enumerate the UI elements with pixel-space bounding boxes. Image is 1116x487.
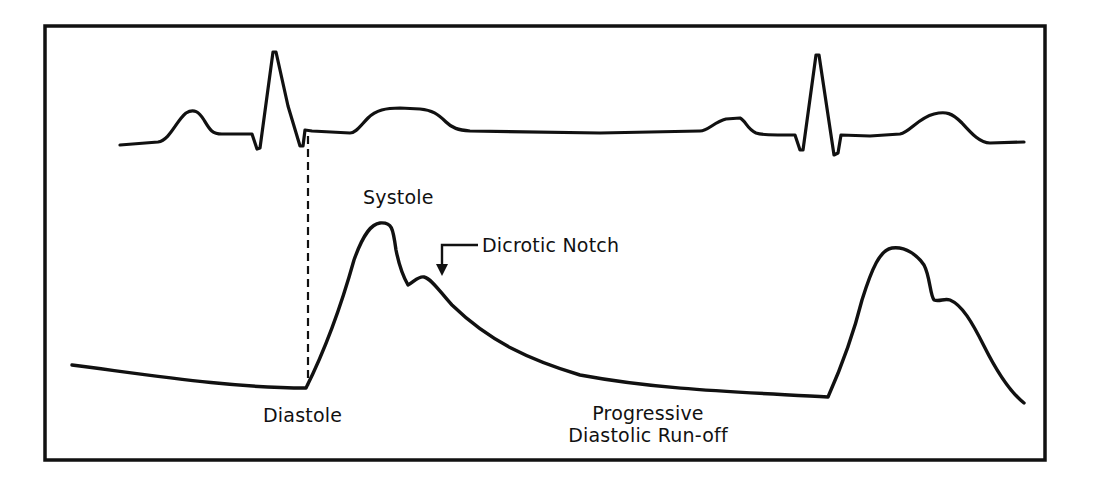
systole-label: Systole: [363, 186, 434, 208]
dicrotic-notch-label: Dicrotic Notch: [482, 234, 619, 256]
runoff-label-line1: Progressive: [578, 402, 718, 424]
diastole-label: Diastole: [263, 404, 342, 426]
ecg-trace: [120, 52, 1024, 155]
arterial-pressure-ecg-diagram: Systole Dicrotic Notch Diastole Progress…: [0, 0, 1116, 487]
runoff-label-line2: Diastolic Run-off: [568, 424, 728, 446]
dicrotic-notch-arrow-icon: [436, 264, 448, 276]
